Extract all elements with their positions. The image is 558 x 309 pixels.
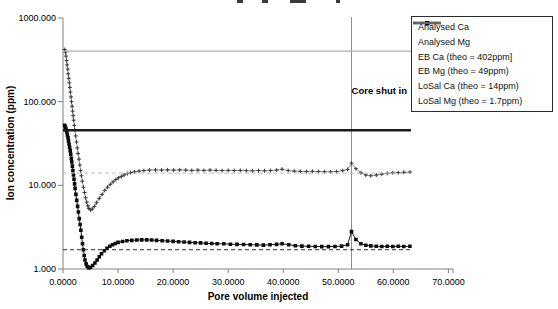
y-tick-label: 10.000 — [28, 180, 56, 190]
series-line-analysed-mg — [65, 125, 410, 268]
x-tick-label: 20.0000 — [157, 277, 190, 287]
y-axis-title: Ion concentration (ppm) — [5, 86, 16, 200]
legend-entry: LoSal Mg (theo = 1.7ppm) — [418, 94, 550, 107]
x-tick-label: 40.0000 — [267, 277, 300, 287]
legend-label: LoSal Mg (theo = 1.7ppm) — [418, 96, 522, 106]
core-shut-in-label: Core shut in — [352, 85, 407, 96]
series-markers-analysed-mg — [63, 124, 412, 270]
chart-figure: 0.000010.000020.000030.000040.000050.000… — [0, 0, 558, 309]
x-tick-label: 30.0000 — [212, 277, 245, 287]
legend-entry: EB Ca (theo = 402ppm] — [418, 50, 550, 63]
x-tick-label: 10.0000 — [102, 277, 135, 287]
y-tick-label: 100.000 — [23, 97, 56, 107]
legend-entry: LoSal Ca (theo = 14ppm) — [418, 79, 550, 92]
x-tick-label: 0.0000 — [49, 277, 77, 287]
x-tick-label: 50.0000 — [322, 277, 355, 287]
legend-label: LoSal Ca (theo = 14ppm) — [418, 81, 519, 91]
legend-sample-line — [412, 17, 442, 29]
x-tick-label: 60.0000 — [377, 277, 410, 287]
legend-label: Analysed Mg — [418, 37, 470, 47]
x-tick-label: 70.0000 — [432, 277, 465, 287]
y-tick-label: 1.000 — [33, 264, 56, 274]
legend-label: EB Ca (theo = 402ppm] — [418, 52, 512, 62]
legend: Analysed CaAnalysed MgEB Ca (theo = 402p… — [411, 16, 553, 112]
y-tick-label: 1000.000 — [18, 13, 56, 23]
legend-entry: EB Mg (theo = 49ppm) — [418, 65, 550, 78]
legend-entry: Analysed Mg — [418, 35, 550, 48]
legend-label: EB Mg (theo = 49ppm) — [418, 66, 509, 76]
x-axis-title: Pore volume injected — [63, 291, 453, 302]
